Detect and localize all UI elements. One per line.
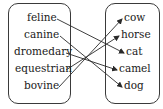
arrow-bovine-to-cow [59, 19, 122, 87]
arrow-feline-to-cat [57, 19, 124, 53]
arrow-dromedary-to-camel [66, 53, 117, 70]
arrow-equestrian-to-horse [66, 36, 119, 70]
mapping-arrows [0, 0, 163, 109]
